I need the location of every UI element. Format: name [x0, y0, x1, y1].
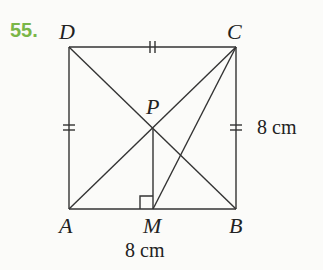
label-m: M	[142, 213, 163, 238]
label-c: C	[227, 19, 242, 44]
geometry-figure: 55. D C P A M B 8 cm 8 cm	[0, 0, 323, 270]
problem-number: 55.	[10, 19, 38, 41]
label-a: A	[57, 213, 73, 238]
segment-cm	[153, 47, 236, 209]
measure-side-bc: 8 cm	[257, 116, 297, 138]
label-b: B	[229, 213, 242, 238]
right-angle-mark	[140, 196, 153, 209]
label-d: D	[58, 19, 75, 44]
measure-side-ab: 8 cm	[125, 239, 165, 261]
label-p: P	[145, 94, 159, 119]
